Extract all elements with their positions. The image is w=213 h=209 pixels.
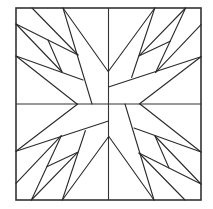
patch-seam-line <box>139 57 201 104</box>
patch-seam-line <box>139 41 170 56</box>
patch-seam-line <box>16 121 109 151</box>
quilt-block-diagram <box>0 0 213 209</box>
patch-seam-line <box>109 136 155 200</box>
patch-seam-line <box>109 57 202 87</box>
patch-seam-line <box>16 104 78 151</box>
patch-seam-line <box>62 137 108 200</box>
patch-seam-line <box>156 8 186 72</box>
patch-seam-line <box>47 152 78 167</box>
patch-seam-line <box>63 8 109 72</box>
patch-seam-line <box>16 56 77 104</box>
patch-seam-line <box>140 104 201 152</box>
patch-seam-line <box>31 136 61 200</box>
patch-seam-line <box>155 136 169 168</box>
patch-seam-line <box>125 104 154 200</box>
patch-seam-line <box>109 8 155 71</box>
patch-seam-line <box>48 40 62 72</box>
patch-seam-line <box>63 8 92 104</box>
